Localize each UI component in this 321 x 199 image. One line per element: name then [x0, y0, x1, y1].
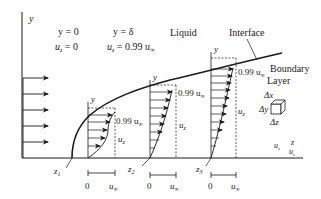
profile-z2-y-label: y [152, 72, 157, 82]
velocity-profile-z1 [88, 102, 115, 158]
scale-z2-end: u∞ [170, 181, 179, 192]
scale-z3-zero: 0 [208, 181, 213, 191]
scale-z1-zero: 0 [85, 181, 90, 191]
scale-bars [88, 170, 236, 178]
boundary-layer-diagram: y y = 0 uz = 0 y = δ uz = 0.99 u∞ Liquid… [0, 0, 321, 199]
svg-text:y = 0: y = 0 [58, 26, 79, 37]
velocity-profile-z2 [150, 80, 176, 158]
scale-z2-zero: 0 [147, 181, 152, 191]
z-axis-label: z [290, 138, 295, 147]
uz-corner-label: uz [274, 141, 280, 151]
profile-z1-edge-label: 0.99 u∞ [116, 116, 143, 127]
delta-z-label: Δz [269, 117, 279, 127]
uz-corner-label-2: uz [289, 147, 295, 157]
scale-z1-end: u∞ [109, 181, 118, 192]
svg-text:uz = 0.99 u∞: uz = 0.99 u∞ [107, 41, 155, 54]
svg-text:uz = 0: uz = 0 [55, 41, 78, 53]
profile-z1-uz-label: uz [118, 134, 126, 145]
scale-z3-end: u∞ [231, 181, 240, 192]
delta-x-label: Δx [263, 90, 273, 100]
profile-z2-uz-label: uz [179, 120, 187, 131]
profile-z3-uz-label: uz [238, 106, 246, 117]
velocity-profile-z3 [211, 52, 236, 158]
profile-z3-y-label: y [213, 44, 218, 54]
free-stream-arrows [23, 78, 48, 158]
edge-condition-label: y = δ uz = 0.99 u∞ [107, 26, 155, 54]
svg-text:y = δ: y = δ [113, 26, 134, 37]
interface-leader [247, 39, 257, 60]
profile-z1-y-label: y [90, 94, 95, 104]
station-z3-label: z3 [195, 164, 203, 175]
profile-z3-edge-label: 0.99 u∞ [238, 67, 265, 78]
station-z2-label: z2 [127, 164, 135, 175]
layer-label: Layer [267, 75, 291, 86]
wall-condition-label: y = 0 uz = 0 [55, 26, 79, 53]
boundary-label: Boundary [270, 63, 309, 74]
delta-y-label: Δy [258, 104, 268, 114]
profile-z2-edge-label: 0.99 u∞ [178, 88, 205, 99]
interface-label: Interface [229, 27, 265, 38]
y-axis-label: y [28, 13, 34, 24]
differential-element-cube [271, 100, 285, 114]
liquid-label: Liquid [170, 27, 197, 38]
station-z1-label: z1 [53, 166, 61, 177]
